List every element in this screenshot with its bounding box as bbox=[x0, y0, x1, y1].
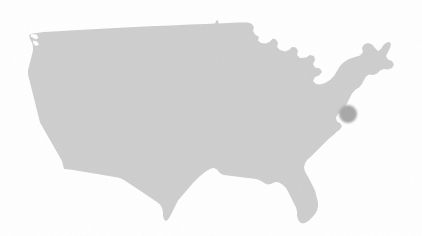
us-map-figure: United States Map United States landmass… bbox=[0, 0, 422, 236]
marker-group[interactable] bbox=[339, 105, 357, 123]
map-canvas bbox=[0, 0, 422, 236]
location-marker-dot[interactable] bbox=[339, 105, 357, 123]
